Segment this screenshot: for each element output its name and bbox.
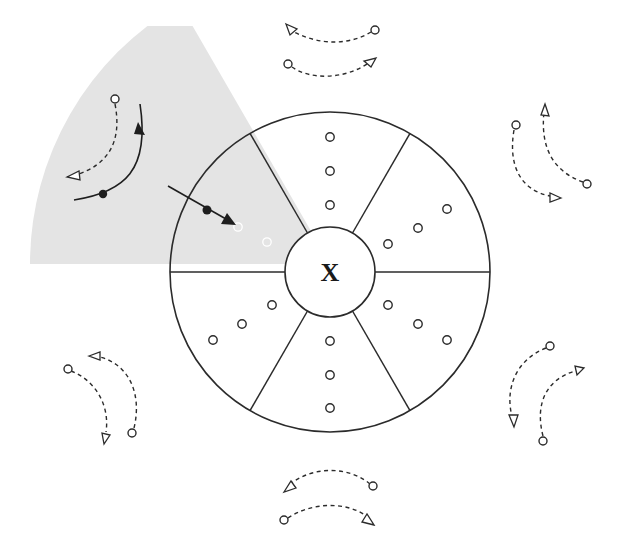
dot xyxy=(326,337,334,345)
flow-right-lower xyxy=(509,342,584,445)
start-dot xyxy=(546,342,554,350)
start-dot xyxy=(369,482,377,490)
flow-bottom xyxy=(280,470,377,525)
spoke-240 xyxy=(250,311,308,411)
dot xyxy=(414,224,422,232)
dashed-flow-path xyxy=(288,505,368,518)
dashed-flow-path xyxy=(100,357,136,428)
dashed-flow-path xyxy=(513,130,551,196)
arrowhead-open-icon xyxy=(89,352,100,360)
dot xyxy=(414,320,422,328)
arrowhead-open-icon xyxy=(541,104,549,116)
dashed-flow-path xyxy=(540,371,575,436)
arrowhead-open-icon xyxy=(284,481,296,492)
arrowhead-open-icon xyxy=(364,58,376,67)
dot xyxy=(443,336,451,344)
arrowhead-open-icon xyxy=(509,415,518,427)
dashed-flow-path xyxy=(292,31,371,42)
spoke-300 xyxy=(353,311,411,411)
dot xyxy=(326,201,334,209)
hub-label: X xyxy=(321,258,340,287)
start-dot xyxy=(512,121,520,129)
sector-upper-right-dots xyxy=(384,205,451,248)
shaded-sector-mask xyxy=(0,0,623,26)
dot xyxy=(384,301,392,309)
filled-dot-icon xyxy=(203,206,212,215)
shaded-sector xyxy=(30,4,330,264)
arrowhead-open-icon xyxy=(102,433,110,444)
dot xyxy=(326,404,334,412)
start-dot xyxy=(539,437,547,445)
start-dot xyxy=(111,95,119,103)
dot xyxy=(384,240,392,248)
flow-left-lower xyxy=(64,352,136,444)
arrowhead-open-icon xyxy=(362,514,374,525)
arrowhead-open-icon xyxy=(575,366,584,375)
start-dot xyxy=(280,516,288,524)
sector-lower-left-dots xyxy=(209,301,276,344)
dashed-flow-path xyxy=(510,348,546,416)
dot xyxy=(326,371,334,379)
start-dot xyxy=(284,60,292,68)
wheel-diagram: X xyxy=(0,0,623,557)
start-dot xyxy=(128,429,136,437)
start-dot xyxy=(371,26,379,34)
dot xyxy=(443,205,451,213)
dashed-flow-path xyxy=(292,62,370,76)
dot xyxy=(209,336,217,344)
dashed-flow-path xyxy=(290,470,370,484)
sector-lower-right-dots xyxy=(384,301,451,344)
arrowhead-open-icon xyxy=(550,193,561,202)
dashed-flow-path xyxy=(71,371,107,432)
sector-bottom-dots xyxy=(326,337,334,412)
start-dot xyxy=(64,365,72,373)
sector-top-dots xyxy=(326,133,334,209)
spoke-60 xyxy=(353,133,411,233)
flow-top xyxy=(284,24,379,76)
dot xyxy=(326,133,334,141)
dot xyxy=(326,167,334,175)
dot xyxy=(268,301,276,309)
dot xyxy=(238,320,246,328)
start-dot xyxy=(583,180,591,188)
filled-dot-icon xyxy=(99,190,107,198)
flow-right-upper xyxy=(512,104,591,202)
dashed-flow-path xyxy=(543,112,583,182)
